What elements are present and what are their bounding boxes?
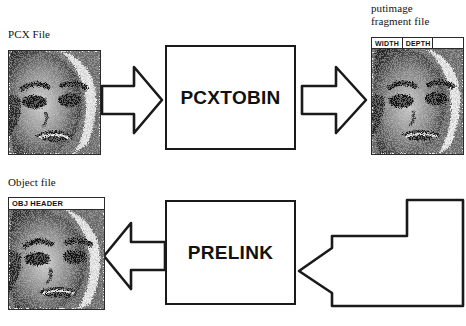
portrait-halftone-image — [9, 198, 104, 309]
header-cell-obj-header: OBJ HEADER — [9, 198, 104, 209]
header-cell-width: WIDTH — [372, 38, 403, 48]
pcx-file-thumbnail — [8, 50, 101, 155]
block-arrow-right-icon — [300, 62, 368, 138]
arrow-prelink-to-object — [101, 218, 167, 294]
object-file-thumbnail: OBJ HEADER — [8, 197, 105, 310]
fragment-file-thumbnail: WIDTH DEPTH — [371, 37, 464, 155]
arrow-pcx-to-pcxtobin — [100, 62, 164, 138]
fragment-file-label: putimage fragment file — [371, 2, 429, 27]
arrow-fragment-to-prelink — [296, 198, 466, 310]
process-box-pcxtobin-label: PCXTOBIN — [180, 87, 280, 109]
portrait-halftone-image — [9, 51, 100, 154]
process-box-prelink[interactable]: PRELINK — [165, 200, 296, 305]
process-box-pcxtobin[interactable]: PCXTOBIN — [165, 45, 296, 150]
block-arrow-right-icon — [100, 62, 164, 138]
bent-block-arrow-left-icon — [296, 198, 466, 310]
portrait-halftone-image — [372, 38, 463, 154]
pcx-file-label: PCX File — [8, 28, 50, 41]
fragment-file-header-row: WIDTH DEPTH — [372, 38, 463, 49]
header-cell-depth: DEPTH — [403, 38, 434, 48]
block-arrow-left-icon — [101, 218, 167, 294]
header-cell-empty — [433, 38, 463, 48]
arrow-pcxtobin-to-fragment — [300, 62, 368, 138]
process-box-prelink-label: PRELINK — [188, 242, 274, 264]
object-file-header-row: OBJ HEADER — [9, 198, 104, 210]
diagram-canvas: PCX File Object file putimage fragment f… — [0, 0, 466, 326]
object-file-label: Object file — [8, 176, 56, 189]
